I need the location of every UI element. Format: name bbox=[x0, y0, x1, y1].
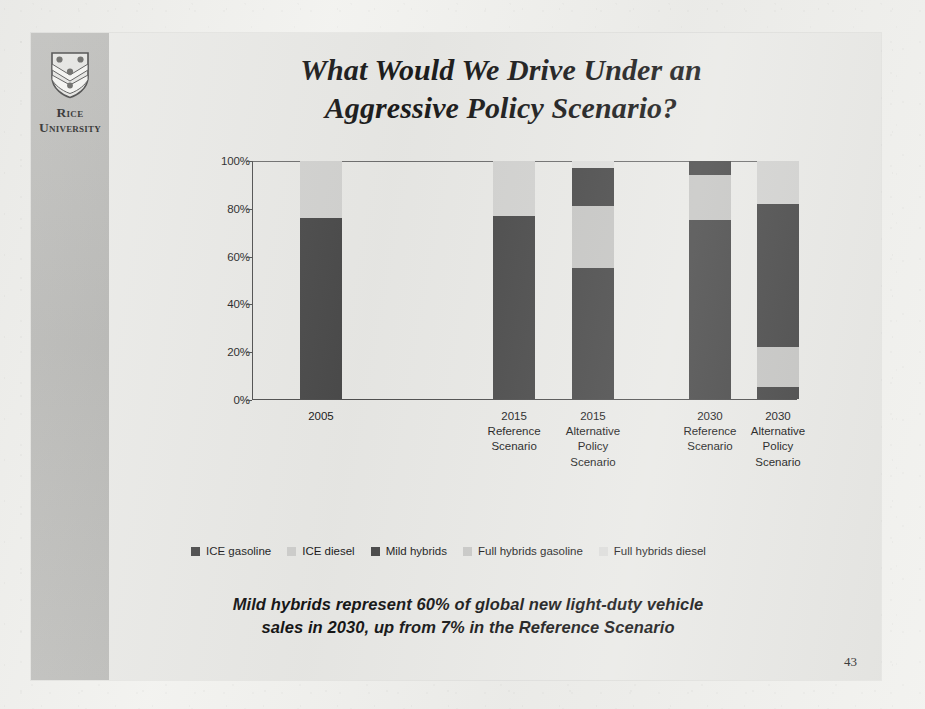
legend-item: Full hybrids diesel bbox=[599, 545, 706, 557]
x-axis-label: 2005 bbox=[278, 409, 365, 424]
legend-label: ICE diesel bbox=[302, 545, 354, 557]
legend-item: ICE diesel bbox=[287, 545, 354, 557]
slide-title-line1: What Would We Drive Under an bbox=[300, 53, 701, 86]
bar-segment bbox=[757, 161, 798, 204]
bar-segment bbox=[493, 161, 534, 216]
legend-swatch-icon bbox=[191, 547, 200, 556]
slide-caption-line1: Mild hybrids represent 60% of global new… bbox=[233, 595, 704, 613]
bar-segment bbox=[572, 268, 613, 399]
bar-segment bbox=[572, 161, 613, 168]
university-name-line2: University bbox=[31, 120, 109, 135]
y-axis-tick-mark bbox=[246, 400, 252, 401]
y-axis-tick-label: 60% bbox=[186, 251, 250, 263]
bar-segment bbox=[493, 216, 534, 399]
x-axis-label-line: Scenario bbox=[491, 440, 536, 452]
x-axis-label-line: Policy bbox=[578, 440, 609, 452]
bar-segment bbox=[300, 218, 341, 399]
x-axis-label-line: Scenario bbox=[570, 456, 615, 468]
legend-swatch-icon bbox=[371, 547, 380, 556]
x-axis-label-line: 2015 bbox=[501, 410, 527, 422]
slide-caption: Mild hybrids represent 60% of global new… bbox=[123, 593, 813, 639]
x-axis-label: 2030AlternativePolicyScenario bbox=[735, 409, 822, 470]
bar-segment bbox=[300, 161, 341, 218]
bar-segment bbox=[689, 220, 730, 399]
x-axis-label-line: Reference bbox=[683, 425, 736, 437]
bar-segment bbox=[757, 387, 798, 399]
legend-item: Mild hybrids bbox=[371, 545, 447, 557]
legend-item: ICE gasoline bbox=[191, 545, 271, 557]
legend-item: Full hybrids gasoline bbox=[463, 545, 583, 557]
rice-shield-icon bbox=[50, 51, 90, 99]
x-axis-label-line: 2005 bbox=[308, 410, 334, 422]
x-axis-label-line: 2015 bbox=[580, 410, 606, 422]
y-axis-tick-label: 100% bbox=[186, 155, 250, 167]
bar-segment bbox=[757, 204, 798, 347]
x-axis-label-line: 2030 bbox=[697, 410, 723, 422]
x-axis-label-line: Policy bbox=[763, 440, 794, 452]
bar-segment bbox=[689, 175, 730, 220]
legend-label: Full hybrids gasoline bbox=[478, 545, 583, 557]
x-axis-label-line: 2030 bbox=[765, 410, 791, 422]
legend-label: Full hybrids diesel bbox=[614, 545, 706, 557]
slide-title-line2: Aggressive Policy Scenario? bbox=[325, 91, 678, 124]
x-axis-label: 2015ReferenceScenario bbox=[471, 409, 558, 455]
y-axis-tick-label: 80% bbox=[186, 203, 250, 215]
bar-segment bbox=[572, 206, 613, 268]
y-axis-tick-label: 0% bbox=[186, 394, 250, 406]
slide-caption-line2: sales in 2030, up from 7% in the Referen… bbox=[261, 618, 674, 636]
legend-swatch-icon bbox=[599, 547, 608, 556]
legend-label: ICE gasoline bbox=[206, 545, 271, 557]
university-name: Rice University bbox=[31, 105, 109, 135]
university-name-line1: Rice bbox=[31, 105, 109, 120]
slide-title: What Would We Drive Under an Aggressive … bbox=[181, 51, 821, 127]
branding-rail: Rice University bbox=[31, 33, 109, 680]
bar-segment bbox=[572, 168, 613, 206]
bar-4: 2030AlternativePolicyScenario bbox=[757, 161, 798, 399]
y-axis-tick-label: 40% bbox=[186, 298, 250, 310]
x-axis-label: 2015AlternativePolicyScenario bbox=[550, 409, 637, 470]
x-axis-label-line: Alternative bbox=[566, 425, 620, 437]
x-axis-label-line: Alternative bbox=[751, 425, 805, 437]
bar-segment bbox=[757, 347, 798, 387]
legend-label: Mild hybrids bbox=[386, 545, 447, 557]
bar-2: 2015AlternativePolicyScenario bbox=[572, 161, 613, 399]
page-number: 43 bbox=[844, 654, 857, 670]
presentation-slide: Rice University What Would We Drive Unde… bbox=[31, 33, 881, 680]
chart-legend: ICE gasolineICE dieselMild hybridsFull h… bbox=[191, 545, 791, 557]
x-axis-label-line: Scenario bbox=[687, 440, 732, 452]
bar-segment bbox=[689, 161, 730, 175]
bar-3: 2030ReferenceScenario bbox=[689, 161, 730, 399]
legend-swatch-icon bbox=[287, 547, 296, 556]
legend-swatch-icon bbox=[463, 547, 472, 556]
y-axis-tick-label: 20% bbox=[186, 346, 250, 358]
bar-0: 2005 bbox=[300, 161, 341, 399]
stacked-bar-chart: 0%20%40%60%80%100% 20052015ReferenceScen… bbox=[186, 148, 806, 473]
x-axis-label-line: Scenario bbox=[755, 456, 800, 468]
plot-area: 20052015ReferenceScenario2015Alternative… bbox=[252, 161, 797, 400]
bar-1: 2015ReferenceScenario bbox=[493, 161, 534, 399]
x-axis-label-line: Reference bbox=[488, 425, 541, 437]
